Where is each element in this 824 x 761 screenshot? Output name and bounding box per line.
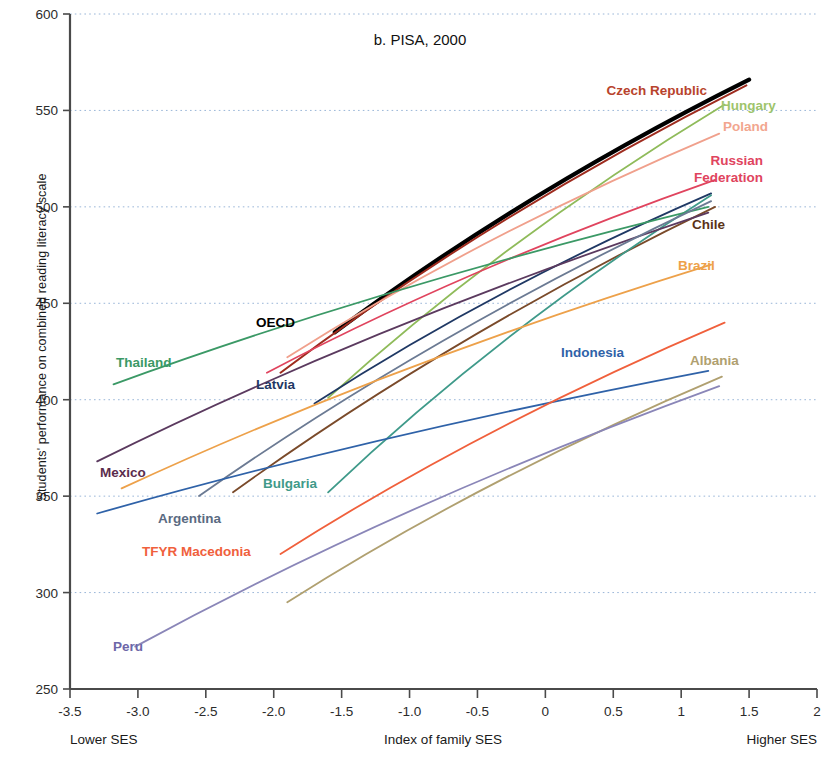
series-line-poland xyxy=(287,134,719,358)
series-label-russian-federation: Russian xyxy=(710,153,763,168)
x-tick-label: -0.5 xyxy=(466,704,489,719)
series-label-mexico: Mexico xyxy=(100,465,146,480)
series-line-bulgaria xyxy=(328,195,711,492)
series-label-latvia: Latvia xyxy=(256,377,296,392)
series-label-chile: Chile xyxy=(692,217,725,232)
series-label-poland: Poland xyxy=(723,119,768,134)
series-line-brazil xyxy=(122,265,712,489)
series-label-bulgaria: Bulgaria xyxy=(263,476,318,491)
x-tick-label: 0.5 xyxy=(604,704,623,719)
series-lines xyxy=(97,80,749,647)
x-axis-title: Index of family SES xyxy=(384,732,502,747)
series-label-peru: Peru xyxy=(113,639,143,654)
x-tick-label: -1.0 xyxy=(398,704,421,719)
y-axis-title: Students' performance on combined readin… xyxy=(35,57,49,617)
x-tick-label: -3.5 xyxy=(58,704,81,719)
y-tick-label: 250 xyxy=(35,682,58,697)
series-line-oecd xyxy=(335,80,749,333)
x-tick-label: -3.0 xyxy=(126,704,149,719)
series-label-brazil: Brazil xyxy=(678,258,715,273)
series-labels: OECDCzech RepublicHungaryPolandRussianFe… xyxy=(100,83,776,654)
x-tick-label: -1.5 xyxy=(330,704,353,719)
x-tick-label: -2.0 xyxy=(262,704,285,719)
pisa-2000-line-chart: 250300350400450500550600 -3.5-3.0-2.5-2.… xyxy=(0,0,824,761)
series-line-indonesia xyxy=(97,371,708,514)
axes xyxy=(70,14,817,689)
series-label-hungary: Hungary xyxy=(721,98,776,113)
x-tick-label: 1.5 xyxy=(740,704,759,719)
x-axis-right-end-label: Higher SES xyxy=(746,732,817,747)
series-line-russian-federation xyxy=(267,180,715,373)
series-label-albania: Albania xyxy=(690,353,739,368)
series-label-russian-federation: Federation xyxy=(694,170,763,185)
y-tick-label: 600 xyxy=(35,7,58,22)
series-label-oecd: OECD xyxy=(256,315,295,330)
x-axis-left-end-label: Lower SES xyxy=(70,732,138,747)
series-label-czech-republic: Czech Republic xyxy=(606,83,707,98)
x-tick-label: 2 xyxy=(813,704,821,719)
series-label-thailand: Thailand xyxy=(116,355,172,370)
series-line-peru xyxy=(135,386,719,646)
series-line-tfyr-macedonia xyxy=(281,323,725,554)
series-label-tfyr-macedonia: TFYR Macedonia xyxy=(142,544,251,559)
x-tick-label: 1 xyxy=(677,704,685,719)
x-tick-label: 0 xyxy=(542,704,550,719)
series-label-indonesia: Indonesia xyxy=(561,345,625,360)
chart-title: b. PISA, 2000 xyxy=(374,31,467,48)
x-tick-label: -2.5 xyxy=(194,704,217,719)
x-axis-ticks: -3.5-3.0-2.5-2.0-1.5-1.0-0.500.511.52 xyxy=(58,689,820,719)
series-label-argentina: Argentina xyxy=(158,511,221,526)
chart-root: 250300350400450500550600 -3.5-3.0-2.5-2.… xyxy=(0,0,824,761)
